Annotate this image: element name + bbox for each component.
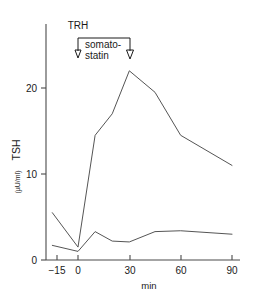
trh-annotation-label: TRH [68,20,89,31]
y-tick-label-20: 20 [26,83,38,94]
x-axis-title: min [141,280,156,291]
y-tick-label-10: 10 [26,169,38,180]
y-axis-unit: (µU/ml) [14,170,22,193]
y-tick-label-0: 0 [31,255,37,266]
tsh-line-chart: 0 10 20 −15 0 30 60 90 min TSH (µU/ml) [0,0,253,302]
x-tick-label-30: 30 [124,265,136,276]
somatostatin-annotation-label-line1: somato- [85,39,121,50]
data-series-group [52,71,232,252]
somatostatin-annotation-label-line2: statin [85,50,109,61]
y-axis-title: TSH [10,140,22,161]
trh-down-arrow-icon [75,50,81,58]
y-axis-title-group: TSH (µU/ml) [10,140,22,194]
y-tick-labels-group: 0 10 20 [26,83,38,266]
x-ticks-group [57,255,232,260]
axes-group [46,24,240,260]
x-tick-label-90: 90 [226,265,238,276]
x-tick-label-60: 60 [175,265,187,276]
x-tick-label-0: 0 [75,265,81,276]
series-line-trh-stimulated [52,71,232,247]
somatostatin-end-down-arrow-icon [127,50,134,59]
x-tick-labels-group: −15 0 30 60 90 [49,265,238,276]
x-tick-label-neg15: −15 [49,265,66,276]
chart-figure: 0 10 20 −15 0 30 60 90 min TSH (µU/ml) [0,0,253,302]
annotations-group: TRH somato- statin [68,20,134,61]
y-ticks-group [41,88,46,260]
